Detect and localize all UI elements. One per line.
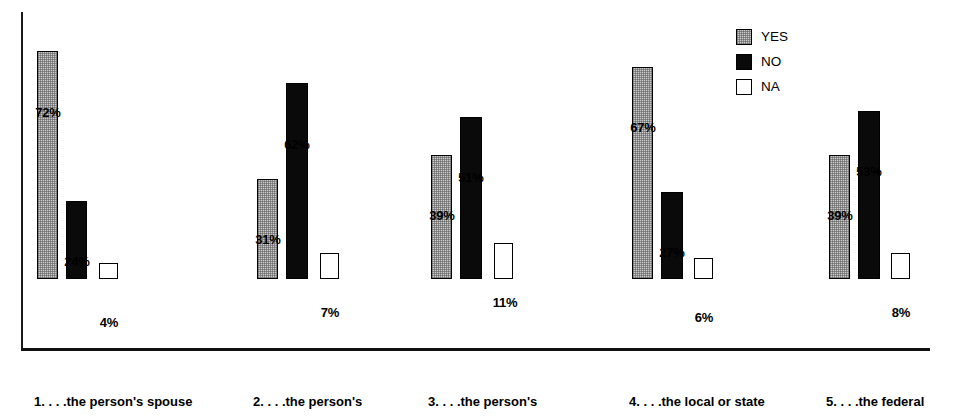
- bar-label-g4-no: 27%: [652, 246, 692, 259]
- bar-label-g5-yes: 39%: [820, 209, 860, 222]
- legend-label-na: NA: [761, 80, 780, 94]
- category-label-1-line1: 1. . . .the person's spouse: [34, 394, 192, 410]
- grey-swatch-icon: [736, 29, 752, 45]
- category-label-1: 1. . . .the person's spouse or sexual pa…: [34, 363, 192, 420]
- bar-g2-na: [320, 253, 339, 279]
- bar-label-g1-yes: 72%: [28, 106, 68, 119]
- plot-area: 72% 24% 4% 31% 62% 7% 39% 51% 11% 67% 27…: [0, 0, 959, 351]
- bar-label-g3-na: 11%: [485, 296, 525, 309]
- black-swatch-icon: [736, 54, 752, 70]
- bar-g2-no: [286, 83, 308, 279]
- chart-legend: YES NO NA: [736, 24, 788, 99]
- bar-chart: 72% 24% 4% 31% 62% 7% 39% 51% 11% 67% 27…: [0, 0, 959, 420]
- white-swatch-icon: [736, 79, 752, 95]
- legend-label-no: NO: [761, 55, 781, 69]
- legend-item-na[interactable]: NA: [736, 74, 788, 99]
- category-label-2: 2. . . .the person's employer?: [253, 363, 362, 420]
- category-label-5: 5. . . .the federal government?: [826, 363, 930, 420]
- legend-label-yes: YES: [761, 30, 788, 44]
- bar-label-g5-no: 53%: [849, 165, 889, 178]
- category-label-3-line1: 3. . . .the person's: [428, 394, 580, 410]
- legend-item-no[interactable]: NO: [736, 49, 788, 74]
- bar-g1-yes: [37, 51, 58, 279]
- bar-label-g1-na: 4%: [92, 316, 126, 329]
- legend-item-yes[interactable]: YES: [736, 24, 788, 49]
- bar-label-g3-no: 51%: [451, 171, 491, 184]
- bar-label-g5-na: 8%: [884, 306, 918, 319]
- bar-g3-no: [460, 117, 482, 279]
- bar-g3-na: [494, 243, 513, 279]
- bar-g5-no: [858, 111, 880, 279]
- bar-g4-no: [661, 192, 683, 279]
- bar-g2-yes: [257, 179, 278, 279]
- x-axis-category-labels: 1. . . .the person's spouse or sexual pa…: [0, 360, 959, 420]
- bar-label-g2-yes: 31%: [248, 233, 288, 246]
- category-label-5-line1: 5. . . .the federal: [826, 394, 930, 410]
- bar-label-g4-yes: 67%: [623, 121, 663, 134]
- bar-label-g2-na: 7%: [313, 306, 347, 319]
- bar-label-g2-no: 62%: [277, 138, 317, 151]
- bar-label-g3-yes: 39%: [422, 209, 462, 222]
- bar-g4-yes: [632, 67, 653, 279]
- category-label-4-line1: 4. . . .the local or state: [629, 394, 765, 410]
- category-label-4: 4. . . .the local or state public health…: [629, 363, 765, 420]
- category-label-2-line1: 2. . . .the person's: [253, 394, 362, 410]
- bar-g1-na: [99, 263, 118, 279]
- bar-g4-na: [694, 258, 713, 279]
- bar-g5-na: [891, 253, 910, 279]
- bar-label-g1-no: 24%: [57, 255, 97, 268]
- category-label-3: 3. . . .the person's insurance company?: [428, 363, 580, 420]
- bar-label-g4-na: 6%: [687, 311, 721, 324]
